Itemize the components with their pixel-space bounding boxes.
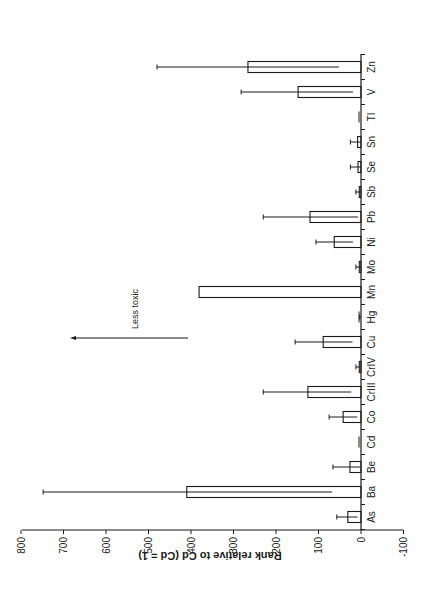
bar-criii bbox=[263, 387, 361, 398]
value-tick-label: 100 bbox=[313, 537, 324, 554]
category-label-sn: Sn bbox=[366, 136, 377, 148]
bar-as bbox=[337, 512, 361, 523]
bar-co bbox=[329, 412, 361, 423]
bar-series bbox=[43, 62, 361, 523]
category-label-co: Co bbox=[366, 410, 377, 423]
bar-criv bbox=[356, 362, 361, 373]
bar-chart: 8007006005004003002001000-100 AsBaBeCdCo… bbox=[0, 0, 423, 599]
category-label-criii: CrIII bbox=[366, 383, 377, 402]
bar-zn bbox=[157, 62, 361, 73]
category-label-mo: Mo bbox=[366, 260, 377, 274]
bar-be bbox=[333, 462, 361, 473]
category-label-tl: Tl bbox=[366, 113, 377, 121]
category-axis-labels: AsBaBeCdCoCrIIICrIVCuHgMnMoNiPbSbSeSnTlV… bbox=[366, 61, 377, 523]
category-label-se: Se bbox=[366, 160, 377, 173]
value-tick-label: 700 bbox=[58, 537, 69, 554]
bar-sb bbox=[356, 187, 361, 198]
category-label-ni: Ni bbox=[366, 237, 377, 246]
bar-mn bbox=[199, 287, 361, 298]
arrow-head-icon bbox=[70, 336, 76, 340]
category-label-zn: Zn bbox=[366, 61, 377, 73]
value-tick-label: 600 bbox=[101, 537, 112, 554]
bar-v bbox=[241, 87, 361, 98]
annotation-label: Less toxic bbox=[130, 288, 140, 329]
category-label-hg: Hg bbox=[366, 311, 377, 324]
bar-rect bbox=[199, 287, 361, 298]
bar-ni bbox=[316, 237, 361, 248]
bar-pb bbox=[263, 212, 361, 223]
category-label-as: As bbox=[366, 511, 377, 523]
value-tick-label: -100 bbox=[398, 537, 409, 557]
bar-sn bbox=[350, 137, 361, 148]
category-label-criv: CrIV bbox=[366, 357, 377, 377]
bar-mo bbox=[356, 262, 361, 273]
less-toxic-annotation: Less toxic bbox=[70, 288, 188, 340]
category-label-ba: Ba bbox=[366, 485, 377, 498]
category-label-mn: Mn bbox=[366, 285, 377, 299]
category-label-cu: Cu bbox=[366, 336, 377, 349]
category-label-pb: Pb bbox=[366, 210, 377, 223]
value-tick-label: 800 bbox=[16, 537, 27, 554]
bar-hg bbox=[359, 312, 361, 323]
category-label-cd: Cd bbox=[366, 436, 377, 449]
bar-cu bbox=[295, 337, 361, 348]
value-tick-label: 0 bbox=[356, 537, 367, 543]
y-axis-title: Rank relative to Cd (Cd = 1) bbox=[138, 550, 282, 562]
bar-se bbox=[350, 162, 361, 173]
bar-ba bbox=[43, 487, 361, 498]
category-label-v: V bbox=[366, 88, 377, 95]
category-label-be: Be bbox=[366, 460, 377, 473]
category-label-sb: Sb bbox=[366, 185, 377, 198]
